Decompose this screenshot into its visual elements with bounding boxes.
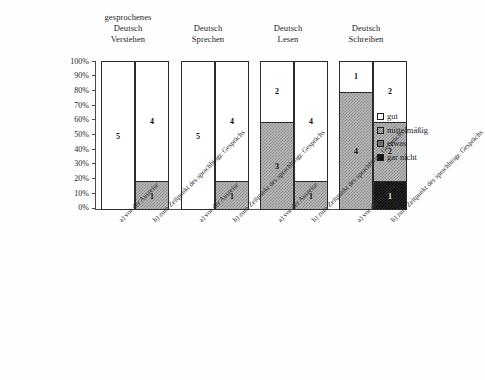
segment-value-label: 4 [230,117,234,126]
legend-label: gut [387,110,398,124]
y-tick-label: 60% [55,116,89,124]
group-header-line: Sprechen [166,34,250,45]
bar-verstehen-a[interactable]: 5 [101,61,135,210]
group-header-verstehen: gesprochenes Deutsch Verstehen [86,12,170,45]
y-tick-label: 0% [55,204,89,212]
y-tick-mark [92,90,96,91]
y-tick-label: 20% [55,175,89,183]
y-tick-mark [92,208,96,209]
group-header-line: Deutsch [246,23,330,34]
y-tick-label: 10% [55,190,89,198]
segment-value-label: 2 [388,87,392,96]
y-tick-label: 80% [55,87,89,95]
y-tick-label: 50% [55,131,89,139]
group-header-sprechen: Deutsch Sprechen [166,23,250,45]
y-tick-mark [92,163,96,164]
y-tick-mark [92,61,96,62]
group-header-schreiben: Deutsch Schreiben [324,23,408,45]
y-tick-mark [92,134,96,135]
y-tick-mark [92,193,96,194]
legend-swatch-gut-icon [377,113,384,120]
y-tick-label: 100% [55,58,89,66]
group-header-line: Deutsch [86,23,170,34]
segment-value-label: 2 [275,87,279,96]
y-tick-mark [92,105,96,106]
bar-segment-gut: 5 [102,62,134,210]
bar-segment-gut: 4 [136,62,168,181]
y-tick-label: 70% [55,102,89,110]
segment-value-label: 5 [196,132,200,141]
y-axis-line [95,61,96,209]
group-header-line: Verstehen [86,34,170,45]
y-tick-mark [92,178,96,179]
group-header-line: Lesen [246,34,330,45]
legend-label: gar nicht [387,151,417,165]
segment-value-label: 4 [354,147,358,156]
segment-value-label: 1 [354,72,358,81]
segment-value-label: 4 [309,117,313,126]
y-tick-label: 40% [55,146,89,154]
y-tick-mark [92,149,96,150]
y-tick-label: 90% [55,72,89,80]
segment-value-label: 4 [150,117,154,126]
bar-segment-gut: 2 [261,62,293,122]
group-header-line: Schreiben [324,34,408,45]
y-tick-mark [92,119,96,120]
group-header-lesen: Deutsch Lesen [246,23,330,45]
bar-segment-gut: 4 [295,62,327,181]
group-header-line: Deutsch [324,23,408,34]
y-tick-mark [92,75,96,76]
bar-segment-gut: 1 [340,62,372,92]
legend-item-gut[interactable]: gut [377,110,428,124]
segment-value-label: 5 [116,132,120,141]
group-header-line: gesprochenes [86,12,170,23]
y-tick-label: 30% [55,160,89,168]
group-header-line: Deutsch [166,23,250,34]
legend-swatch-mittelmaessig-icon [377,127,384,134]
bar-segment-gut: 4 [216,62,248,181]
